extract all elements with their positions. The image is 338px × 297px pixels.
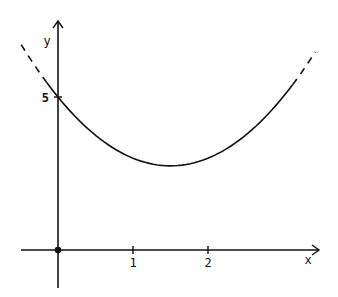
y-tick-label-5: 5 xyxy=(42,91,49,105)
y-axis-label: y xyxy=(43,34,50,48)
curve-solid xyxy=(47,83,293,166)
origin-point xyxy=(55,247,62,254)
curve-left-dashed xyxy=(21,45,47,83)
x-axis-label: x xyxy=(304,253,311,267)
parabola-chart: y 5 1 2 x xyxy=(0,0,338,297)
x-tick-label-1: 1 xyxy=(129,256,136,270)
x-tick-label-2: 2 xyxy=(204,256,211,270)
curve-right-dashed xyxy=(293,52,316,85)
